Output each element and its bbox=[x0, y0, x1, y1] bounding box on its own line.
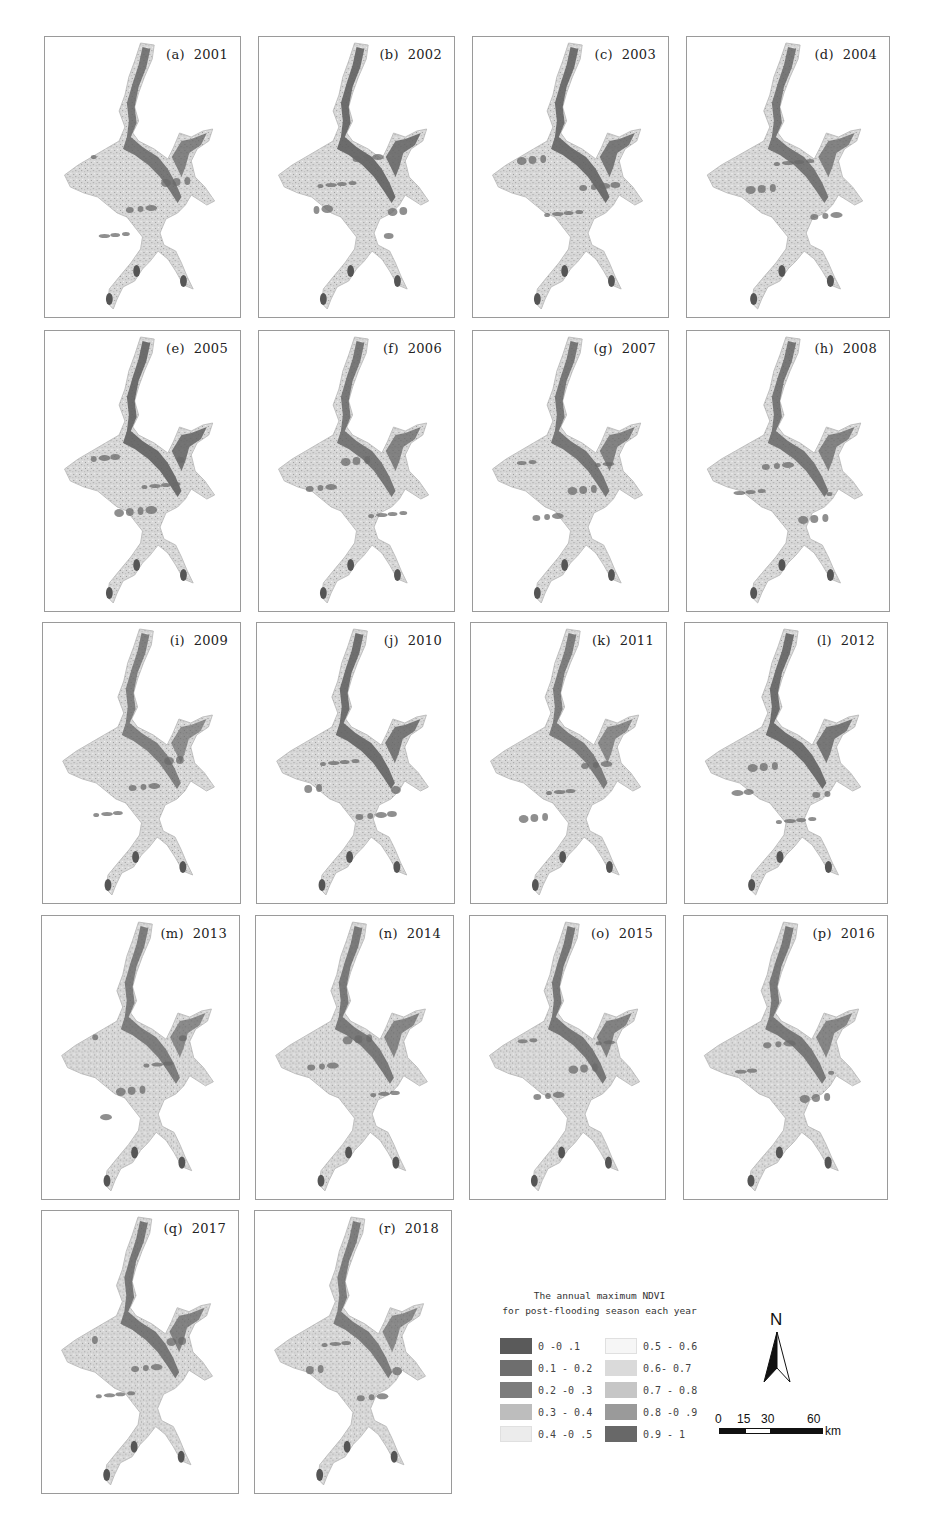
southern-water-body bbox=[106, 293, 113, 305]
low-ndvi-patch bbox=[306, 486, 314, 492]
low-ndvi-patch bbox=[517, 461, 527, 465]
low-ndvi-patch bbox=[96, 1394, 102, 1398]
low-ndvi-patch bbox=[126, 508, 134, 516]
ndvi-map-m bbox=[42, 916, 239, 1199]
low-ndvi-patch bbox=[388, 208, 398, 216]
low-ndvi-patch bbox=[533, 1094, 541, 1100]
southern-water-body bbox=[534, 587, 541, 599]
low-ndvi-patch bbox=[399, 207, 407, 215]
scale-unit: km bbox=[825, 1424, 841, 1438]
low-ndvi-patch bbox=[746, 490, 756, 494]
low-ndvi-patch bbox=[553, 1092, 565, 1098]
low-ndvi-patch bbox=[542, 813, 548, 821]
low-ndvi-patch bbox=[110, 454, 120, 460]
low-ndvi-patch bbox=[116, 1392, 126, 1396]
low-ndvi-patch bbox=[357, 1395, 365, 1401]
southern-water-body bbox=[750, 293, 757, 305]
low-ndvi-patch bbox=[746, 186, 756, 194]
low-ndvi-patch bbox=[126, 207, 134, 213]
low-ndvi-patch bbox=[544, 514, 550, 520]
low-ndvi-patch bbox=[552, 212, 564, 216]
low-ndvi-patch bbox=[770, 184, 776, 192]
low-ndvi-patch bbox=[822, 514, 828, 522]
southern-water-body bbox=[532, 879, 539, 891]
low-ndvi-patch bbox=[784, 819, 796, 823]
low-ndvi-patch bbox=[774, 162, 780, 166]
map-panel-p: (p) 2016 bbox=[683, 915, 888, 1200]
low-ndvi-patch bbox=[349, 181, 357, 185]
southern-water-body bbox=[319, 879, 326, 891]
map-panel-g: (g) 2007 bbox=[472, 330, 669, 612]
low-ndvi-patch bbox=[822, 213, 828, 219]
low-ndvi-patch bbox=[143, 1365, 149, 1371]
low-ndvi-patch bbox=[149, 484, 161, 488]
low-ndvi-patch bbox=[110, 233, 120, 237]
north-arrow: N bbox=[760, 1310, 800, 1390]
low-ndvi-patch bbox=[812, 792, 820, 798]
map-panel-l: (l) 2012 bbox=[684, 622, 888, 904]
low-ndvi-patch bbox=[599, 183, 611, 189]
ndvi-map-o bbox=[470, 916, 665, 1199]
southern-water-body bbox=[606, 861, 613, 873]
low-ndvi-patch bbox=[530, 814, 538, 822]
low-ndvi-patch bbox=[783, 1040, 795, 1046]
map-panel-c: (c) 2003 bbox=[472, 36, 669, 318]
legend-label: 0.2 -0 .3 bbox=[538, 1385, 592, 1396]
low-ndvi-patch bbox=[772, 762, 778, 770]
legend-title: The annual maximum NDVI for post-floodin… bbox=[482, 1288, 717, 1318]
ndvi-map-a bbox=[45, 37, 240, 317]
low-ndvi-patch bbox=[775, 1041, 781, 1047]
panel-label: (m) 2013 bbox=[160, 926, 227, 941]
southern-water-body bbox=[393, 861, 400, 873]
ndvi-map-p bbox=[684, 916, 887, 1199]
low-ndvi-patch bbox=[782, 161, 794, 165]
legend-title-line2: for post-flooding season each year bbox=[482, 1303, 717, 1318]
low-ndvi-patch bbox=[774, 463, 780, 469]
low-ndvi-patch bbox=[321, 205, 333, 213]
low-ndvi-patch bbox=[341, 458, 351, 466]
low-ndvi-patch bbox=[368, 514, 374, 518]
low-ndvi-patch bbox=[356, 814, 364, 820]
low-ndvi-patch bbox=[595, 463, 601, 467]
low-ndvi-patch bbox=[529, 156, 537, 164]
low-ndvi-patch bbox=[370, 1093, 376, 1097]
low-ndvi-patch bbox=[828, 1071, 834, 1075]
southern-water-body bbox=[827, 569, 834, 581]
panel-label: (a) 2001 bbox=[166, 47, 228, 62]
low-ndvi-patch bbox=[806, 159, 814, 163]
low-ndvi-patch bbox=[592, 1064, 598, 1072]
southern-water-body bbox=[605, 1157, 612, 1169]
scale-segment-2 bbox=[745, 1428, 771, 1434]
low-ndvi-patch bbox=[544, 213, 550, 217]
low-ndvi-patch bbox=[184, 177, 190, 185]
low-ndvi-patch bbox=[93, 813, 99, 817]
map-panel-n: (n) 2014 bbox=[255, 915, 454, 1200]
scale-tick-30: 30 bbox=[761, 1412, 774, 1426]
legend-item: 0.5 - 0.6 bbox=[605, 1338, 697, 1354]
low-ndvi-patch bbox=[99, 234, 111, 238]
low-ndvi-patch bbox=[601, 761, 613, 767]
low-ndvi-patch bbox=[367, 813, 373, 819]
low-ndvi-patch bbox=[138, 206, 144, 212]
map-panel-a: (a) 2001 bbox=[44, 36, 241, 318]
panel-label: (r) 2018 bbox=[379, 1221, 439, 1236]
low-ndvi-patch bbox=[376, 513, 388, 517]
legend-item: 0.4 -0 .5 bbox=[500, 1426, 592, 1442]
legend-item: 0.1 - 0.2 bbox=[500, 1360, 592, 1376]
legend-label: 0 -0 .1 bbox=[538, 1341, 580, 1352]
southern-water-body bbox=[320, 587, 327, 599]
low-ndvi-patch bbox=[796, 818, 806, 822]
low-ndvi-patch bbox=[325, 484, 337, 490]
southern-water-body bbox=[106, 587, 113, 599]
southern-water-body bbox=[776, 851, 783, 863]
southern-water-body bbox=[103, 1469, 110, 1481]
southern-water-body bbox=[778, 265, 785, 277]
southern-water-body bbox=[347, 265, 354, 277]
low-ndvi-patch bbox=[352, 759, 360, 763]
low-ndvi-patch bbox=[388, 512, 398, 516]
low-ndvi-patch bbox=[392, 1367, 402, 1375]
legend-label: 0.9 - 1 bbox=[643, 1429, 685, 1440]
map-panel-d: (d) 2004 bbox=[686, 36, 890, 318]
low-ndvi-patch bbox=[327, 1063, 339, 1069]
low-ndvi-patch bbox=[178, 1337, 186, 1345]
